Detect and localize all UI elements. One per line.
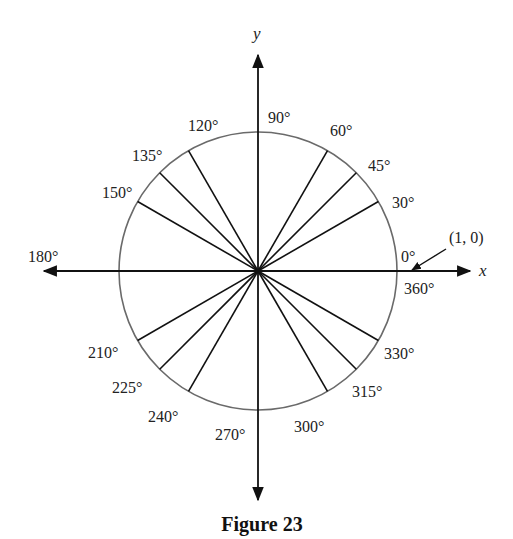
angle-label-90: 90° — [268, 109, 290, 126]
angle-label-180: 180° — [28, 248, 58, 265]
angle-label-360: 360° — [404, 280, 434, 297]
angle-label-60: 60° — [330, 122, 352, 139]
x-axis-label: x — [478, 261, 487, 280]
unit-circle-figure: x y (1, 0) 0°360°30°45°60°90°120°135°150… — [0, 0, 513, 539]
figure-caption: Figure 23 — [221, 513, 302, 536]
angle-labels: 0°360°30°45°60°90°120°135°150°180°210°22… — [28, 109, 434, 443]
angle-label-315: 315° — [352, 383, 382, 400]
angle-label-150: 150° — [102, 184, 132, 201]
point-pointer-arrow — [412, 249, 446, 270]
angle-label-225: 225° — [112, 379, 142, 396]
angle-label-300: 300° — [294, 418, 324, 435]
angle-label-270: 270° — [215, 426, 245, 443]
origin-point — [256, 269, 261, 274]
angle-label-240: 240° — [148, 408, 178, 425]
y-axis-label: y — [251, 24, 261, 43]
angle-label-330: 330° — [384, 345, 414, 362]
angle-label-0: 0° — [401, 248, 415, 265]
angle-label-210: 210° — [88, 344, 118, 361]
point-label-1-0: (1, 0) — [449, 229, 484, 247]
angle-label-30: 30° — [392, 194, 414, 211]
angle-label-135: 135° — [132, 147, 162, 164]
angle-label-120: 120° — [188, 117, 218, 134]
angle-label-45: 45° — [368, 157, 390, 174]
